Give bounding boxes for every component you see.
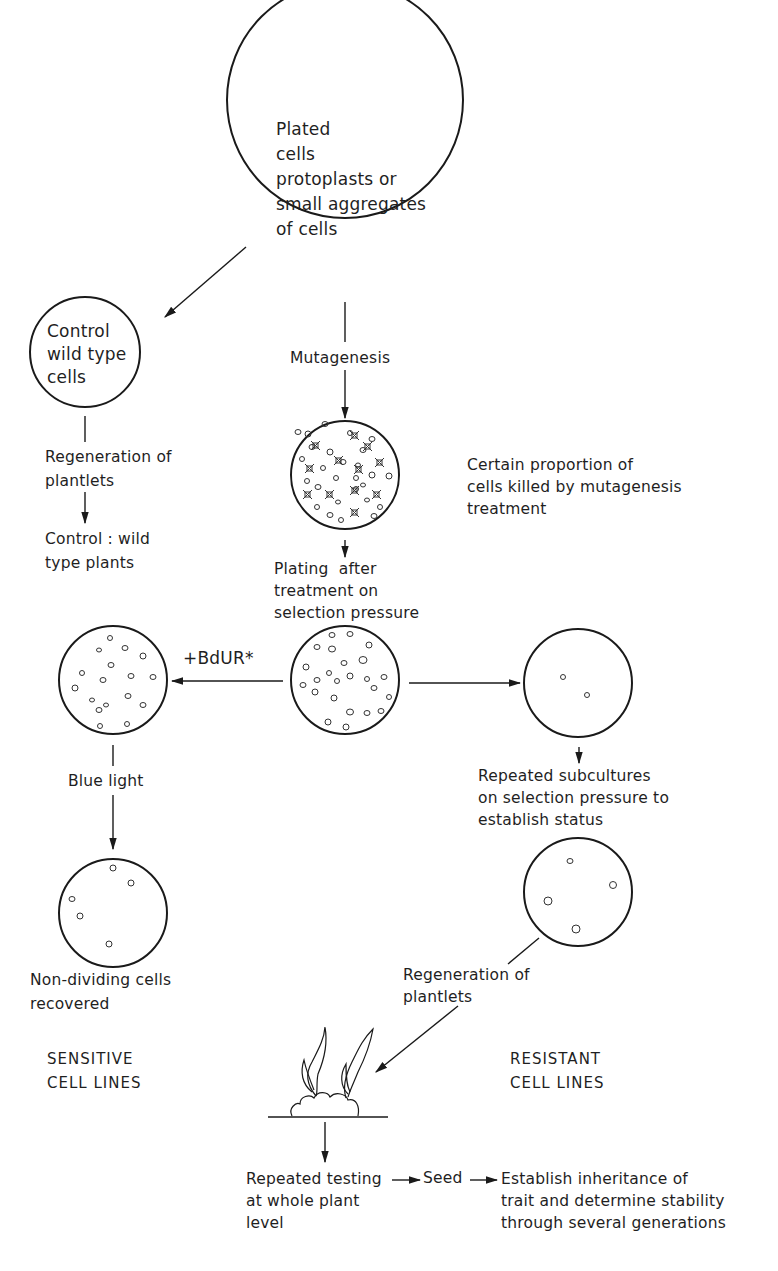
bdur-dish-circle xyxy=(59,626,167,734)
mutagenesis-label: Mutagenesis xyxy=(290,348,390,369)
bdur-label: +BdUR* xyxy=(183,646,254,671)
bdur-dish-cells xyxy=(72,636,156,729)
killed-cells-note: Certain proportion of cells killed by mu… xyxy=(467,454,682,520)
resistant-dish-circle xyxy=(524,629,632,737)
selection-dish-cells xyxy=(300,632,392,731)
dead-cells xyxy=(303,431,384,517)
resistant-cell-lines-label: RESISTANT CELL LINES xyxy=(510,1047,604,1095)
resistant-dish-cells xyxy=(561,675,590,698)
subculture-dish-cells xyxy=(544,859,617,934)
repeated-testing-label: Repeated testing at whole plant level xyxy=(246,1168,382,1234)
line-regeneration-right xyxy=(508,938,539,964)
blue-light-label: Blue light xyxy=(68,771,144,792)
plating-after-label: Plating after treatment on selection pre… xyxy=(274,558,419,624)
non-dividing-label: Non-dividing cells recovered xyxy=(30,968,171,1016)
arrow-to-plant xyxy=(376,1006,458,1072)
regeneration-left-label: Regeneration of plantlets xyxy=(45,445,172,493)
non-dividing-cells xyxy=(69,865,134,947)
non-dividing-dish-circle xyxy=(59,859,167,967)
mutagenized-cells xyxy=(295,422,392,523)
plantlet-drawing xyxy=(291,1027,373,1116)
establish-inheritance-label: Establish inheritance of trait and deter… xyxy=(501,1168,726,1234)
control-cells-label: Control wild type cells xyxy=(47,320,126,389)
regeneration-right-label: Regeneration of plantlets xyxy=(403,964,530,1008)
plated-cells-label: Plated cells protoplasts or small aggreg… xyxy=(276,117,426,242)
seed-label: Seed xyxy=(423,1168,463,1189)
subculture-dish-circle xyxy=(524,838,632,946)
arrow-to-control xyxy=(165,247,246,317)
repeated-subcultures-label: Repeated subcultures on selection pressu… xyxy=(478,765,669,831)
selection-dish-circle xyxy=(291,626,399,734)
control-plants-label: Control : wild type plants xyxy=(45,527,150,575)
sensitive-cell-lines-label: SENSITIVE CELL LINES xyxy=(47,1047,141,1095)
